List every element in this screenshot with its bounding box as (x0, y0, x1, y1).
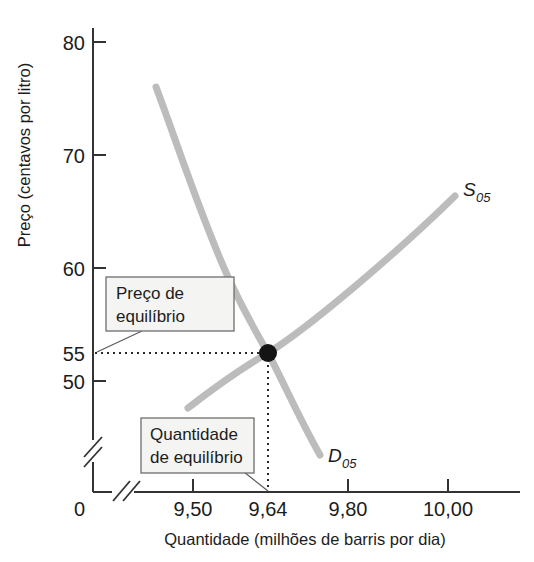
x-axis-break-slash-1 (113, 481, 130, 501)
y-tick-label-50: 50 (63, 371, 85, 393)
demand-label-subscript: 05 (342, 456, 357, 471)
y-tick-label-60: 60 (63, 258, 85, 280)
price-callout-line1: Preço de (116, 284, 184, 303)
demand-label-letter: D (328, 445, 342, 466)
supply-label-subscript: 05 (476, 190, 491, 205)
x-tick-label-950: 9,50 (174, 498, 213, 520)
quantity-callout-line1: Quantidade (150, 425, 238, 444)
quantity-equilibrium-callout: Quantidade de equilíbrio (141, 418, 268, 491)
x-axis-title: Quantidade (milhões de barris por dia) (164, 530, 446, 548)
price-callout-line2: equilíbrio (116, 307, 185, 326)
price-callout-leader (97, 331, 142, 352)
chart-canvas: 80 70 60 55 50 0 9,50 9,64 9,80 10,00 Qu… (0, 0, 534, 562)
x-tick-label-1000: 10,00 (423, 498, 473, 520)
supply-curve-label: S 05 (463, 179, 491, 205)
supply-label-letter: S (463, 179, 476, 200)
y-axis-ticks (93, 42, 106, 381)
quantity-callout-leader (244, 472, 268, 491)
price-equilibrium-callout: Preço de equilíbrio (97, 277, 234, 352)
x-tick-label-964: 9,64 (249, 498, 288, 520)
quantity-callout-line2: de equilíbrio (150, 448, 243, 467)
equilibrium-point (259, 344, 277, 362)
x-tick-label-980: 9,80 (329, 498, 368, 520)
demand-curve (156, 87, 320, 455)
y-tick-label-0: 0 (74, 498, 85, 520)
y-tick-labels: 80 70 60 55 50 0 (63, 32, 85, 520)
supply-demand-figure: 80 70 60 55 50 0 9,50 9,64 9,80 10,00 Qu… (0, 0, 534, 562)
x-axis-ticks (193, 479, 448, 492)
x-tick-labels: 9,50 9,64 9,80 10,00 (174, 498, 474, 520)
y-tick-label-55: 55 (63, 343, 85, 365)
y-tick-label-70: 70 (63, 145, 85, 167)
demand-curve-label: D 05 (328, 445, 357, 471)
y-axis-title: Preço (centavos por litro) (15, 63, 33, 247)
y-tick-label-80: 80 (63, 32, 85, 54)
